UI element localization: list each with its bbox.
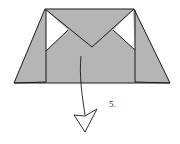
- origami-diagram: [0, 0, 180, 144]
- step-number: 5.: [109, 99, 116, 109]
- paper-shape: [14, 9, 170, 83]
